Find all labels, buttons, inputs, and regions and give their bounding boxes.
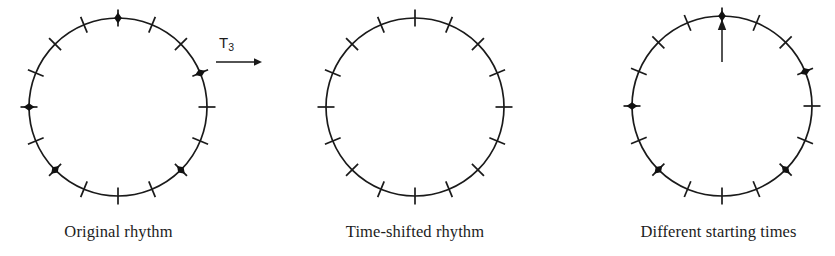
onset-marker: [24, 103, 35, 111]
caption-time-shifted: Time-shifted rhythm: [297, 222, 533, 242]
onset-marker: [194, 67, 207, 78]
cycle-circle-time-shifted: [297, 0, 533, 215]
transform-symbol: T: [219, 34, 228, 51]
onset-marker: [799, 66, 812, 77]
onset-marker: [627, 102, 638, 110]
rhythm-figure: Original rhythm T3: [0, 0, 835, 256]
tick-marks-time-shifted: [318, 10, 513, 205]
onset-marker: [114, 13, 122, 24]
up-arrow-icon: [718, 19, 726, 62]
right-arrow-icon: [214, 52, 266, 72]
caption-different-starting-times: Different starting times: [602, 222, 835, 242]
panel-time-shifted: Time-shifted rhythm: [297, 0, 533, 256]
cycle-circle-different-starting-times: [602, 0, 835, 215]
transform-label: T3: [219, 34, 234, 53]
cycle-circle-original: [0, 0, 237, 215]
onset-markers-different-starting-times: [627, 11, 812, 177]
onset-markers-original: [24, 13, 207, 177]
caption-original: Original rhythm: [0, 222, 237, 242]
panel-original: Original rhythm: [0, 0, 237, 256]
panel-different-starting-times: Different starting times: [602, 0, 835, 256]
tick-marks-original: [21, 10, 216, 205]
